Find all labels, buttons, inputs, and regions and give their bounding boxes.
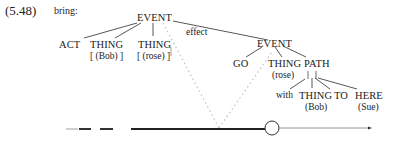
- node-with: with: [276, 91, 293, 101]
- node-go: GO: [233, 59, 248, 70]
- edge-path-here: [318, 78, 357, 89]
- node-thing-rose-sub: [ (rose) ]: [137, 52, 170, 62]
- edge-event-act: [84, 23, 137, 38]
- node-here: HERE: [355, 91, 383, 102]
- timeline-arrow-icon: [368, 127, 372, 130]
- node-event-root: EVENT: [137, 13, 172, 24]
- node-event2: EVENT: [257, 39, 292, 50]
- node-thing-rose2: THING: [268, 59, 301, 70]
- node-thing-bob2-sub: (Bob): [305, 103, 327, 113]
- example-number: (5.48): [5, 4, 36, 17]
- timeline-circle-marker: [265, 121, 279, 135]
- node-here-sub: (Sue): [358, 103, 379, 113]
- effect-label: effect: [186, 28, 207, 38]
- verb-label: bring:: [54, 6, 78, 16]
- node-thing-bob-sub: [ (Bob) ]: [90, 52, 123, 62]
- node-thing-rose2-sub: (rose): [272, 71, 294, 81]
- node-to: TO: [334, 91, 348, 102]
- dotted-line-left: [163, 23, 219, 128]
- node-thing-bob: THING: [90, 40, 123, 51]
- edge-path-with: [290, 79, 305, 89]
- tree-edges: [0, 0, 393, 143]
- node-thing-rose: THING: [138, 40, 171, 51]
- node-path: PATH: [304, 59, 330, 70]
- node-act: ACT: [59, 40, 80, 51]
- node-thing-bob2: THING: [299, 91, 332, 102]
